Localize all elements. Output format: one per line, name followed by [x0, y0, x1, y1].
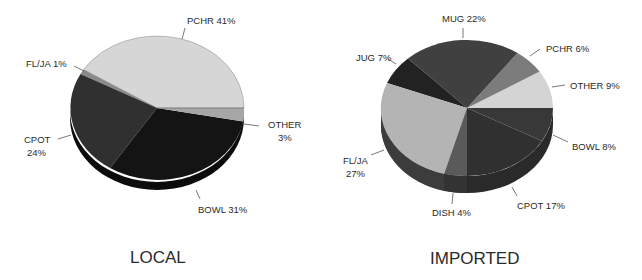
imported-label-dish: DISH 4% [432, 207, 472, 218]
imported-label-fl-ja-name: FL/JA [343, 155, 368, 166]
local-label-other-pct: 3% [278, 132, 292, 143]
local-pie-chart [58, 28, 259, 199]
imported-label-mug: MUG 22% [442, 13, 486, 24]
imported-leader-bowl [553, 135, 568, 142]
local-label-bowl: BOWL 31% [198, 204, 248, 215]
local-chart-title: LOCAL [130, 248, 186, 267]
imported-leader-other [552, 85, 565, 87]
local-label-cpot-name: CPOT [24, 134, 51, 145]
imported-label-fl-ja-pct: 27% [346, 168, 366, 179]
local-leader-pchr [182, 28, 185, 39]
imported-leader-pchr [530, 49, 540, 56]
imported-label-pchr: PCHR 6% [546, 43, 590, 54]
imported-pie-chart [371, 28, 568, 204]
imported-leader-fl-ja [371, 150, 384, 155]
local-leader-fl-ja [74, 66, 84, 71]
local-leader-cpot [58, 135, 71, 139]
local-label-cpot-pct: 24% [27, 147, 47, 158]
local-leader-bowl [196, 190, 200, 199]
imported-label-cpot: CPOT 17% [517, 200, 565, 211]
imported-leader-cpot [512, 187, 517, 196]
local-leader-other [244, 124, 259, 126]
imported-leader-dish [452, 193, 453, 204]
local-label-fl-ja: FL/JA 1% [26, 58, 67, 69]
charts-canvas: PCHR 41% FL/JA 1% CPOT 24% OTHER 3% BOWL… [0, 0, 642, 280]
local-label-other-name: OTHER [268, 119, 301, 130]
imported-label-bowl: BOWL 8% [572, 141, 617, 152]
imported-label-jug: JUG 7% [356, 52, 392, 63]
imported-label-other: OTHER 9% [570, 80, 620, 91]
local-label-pchr: PCHR 41% [187, 15, 236, 26]
imported-chart-title: IMPORTED [430, 249, 519, 268]
